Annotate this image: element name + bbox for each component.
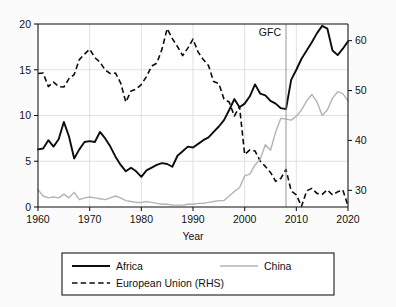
x-tick-label-2010: 2010 — [285, 213, 309, 225]
y-tick-label-left-0: 0 — [25, 201, 31, 213]
y-tick-label-left-15: 15 — [19, 64, 31, 76]
x-tick-label-1960: 1960 — [26, 213, 50, 225]
annotation-label-gfc: GFC — [259, 26, 282, 38]
legend-label-africa: Africa — [116, 260, 143, 272]
x-tick-label-1980: 1980 — [130, 213, 154, 225]
x-axis-title: Year — [182, 230, 204, 242]
grid-lines — [38, 24, 348, 207]
x-tick-label-2000: 2000 — [233, 213, 257, 225]
x-tick-label-1970: 1970 — [78, 213, 102, 225]
x-tick-label-2020: 2020 — [336, 213, 360, 225]
y-tick-label-left-10: 10 — [19, 109, 31, 121]
y-tick-label-right-30: 30 — [355, 184, 367, 196]
legend-label-european-union: European Union (RHS) — [116, 277, 224, 289]
legend-label-china: China — [264, 260, 292, 272]
line-chart: GFC 051015203040506019601970198019902000… — [0, 0, 396, 307]
y-tick-label-left-5: 5 — [25, 155, 31, 167]
y-tick-label-right-50: 50 — [355, 84, 367, 96]
chart-figure: GFC 051015203040506019601970198019902000… — [0, 0, 396, 307]
x-tick-label-1990: 1990 — [181, 213, 205, 225]
y-tick-label-left-20: 20 — [19, 18, 31, 30]
y-tick-label-right-60: 60 — [355, 34, 367, 46]
y-tick-label-right-40: 40 — [355, 134, 367, 146]
chart-legend: AfricaChinaEuropean Union (RHS) — [62, 253, 334, 295]
